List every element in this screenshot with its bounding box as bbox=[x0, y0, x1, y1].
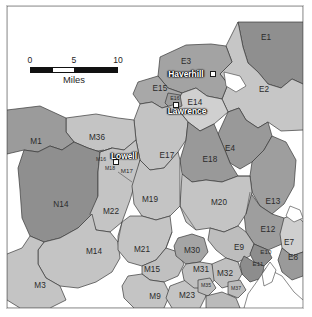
region-label-M36[interactable]: M36 bbox=[89, 134, 105, 142]
scale-bar-graphic bbox=[30, 67, 118, 73]
region-label-M1[interactable]: M1 bbox=[30, 138, 42, 146]
scale-seg-2 bbox=[53, 68, 75, 72]
region-label-M37[interactable]: M37 bbox=[231, 286, 241, 291]
scale-seg-1 bbox=[31, 68, 53, 72]
region-label-E17[interactable]: E17 bbox=[160, 152, 175, 160]
region-label-E3[interactable]: E3 bbox=[181, 58, 191, 66]
region-label-E13[interactable]: E13 bbox=[266, 198, 281, 206]
scale-seg-3 bbox=[74, 68, 117, 72]
region-label-M22[interactable]: M22 bbox=[103, 208, 119, 216]
region-label-E2[interactable]: E2 bbox=[259, 86, 269, 94]
scale-bar-caption: Miles bbox=[30, 74, 118, 85]
scale-bar-ticks: 0 5 10 bbox=[30, 55, 118, 67]
region-label-E1[interactable]: E1 bbox=[261, 34, 271, 42]
region-label-E8[interactable]: E8 bbox=[288, 254, 298, 262]
region-label-M3[interactable]: M3 bbox=[34, 282, 46, 290]
region-label-E16[interactable]: E16 bbox=[170, 96, 179, 101]
region-label-E9[interactable]: E9 bbox=[234, 244, 244, 252]
city-label-haverhill[interactable]: Haverhill bbox=[168, 69, 203, 79]
region-label-M35[interactable]: M35 bbox=[201, 283, 211, 288]
region-label-E11[interactable]: E11 bbox=[253, 261, 264, 267]
region-label-E12[interactable]: E12 bbox=[261, 226, 276, 234]
region-label-E7[interactable]: E7 bbox=[284, 239, 294, 247]
region-label-M20[interactable]: M20 bbox=[211, 199, 227, 207]
region-label-M16[interactable]: M16 bbox=[96, 157, 106, 162]
map-figure: E1E2E3E4E7E8E9E10E11E12E13E14E15E16E17E1… bbox=[0, 0, 312, 317]
region-label-M32[interactable]: M32 bbox=[217, 270, 233, 278]
scale-bar: 0 5 10 Miles bbox=[30, 55, 118, 85]
region-label-M30[interactable]: M30 bbox=[184, 247, 200, 255]
city-label-lowell[interactable]: Lowell bbox=[111, 151, 137, 161]
city-label-lawrence[interactable]: Lawrence bbox=[168, 106, 207, 116]
region-label-M9[interactable]: M9 bbox=[149, 293, 161, 301]
region-label-E15[interactable]: E15 bbox=[153, 85, 168, 93]
region-label-N14[interactable]: N14 bbox=[53, 201, 68, 209]
region-label-M17[interactable]: M17 bbox=[121, 168, 133, 174]
scale-tick-0: 0 bbox=[28, 55, 33, 65]
region-label-M19[interactable]: M19 bbox=[142, 196, 158, 204]
region-label-M18[interactable]: M18 bbox=[105, 166, 115, 171]
region-label-E4[interactable]: E4 bbox=[225, 145, 235, 153]
region-label-M14[interactable]: M14 bbox=[86, 248, 102, 256]
scale-tick-5: 5 bbox=[72, 55, 77, 65]
region-label-M23[interactable]: M23 bbox=[179, 292, 195, 300]
city-marker-haverhill[interactable] bbox=[210, 71, 216, 77]
region-label-M15[interactable]: M15 bbox=[144, 266, 160, 274]
region-label-E10[interactable]: E10 bbox=[260, 249, 271, 255]
scale-tick-10: 10 bbox=[113, 55, 123, 65]
region-label-E18[interactable]: E18 bbox=[203, 156, 218, 164]
region-label-M31[interactable]: M31 bbox=[193, 266, 209, 274]
region-label-M21[interactable]: M21 bbox=[134, 246, 150, 254]
